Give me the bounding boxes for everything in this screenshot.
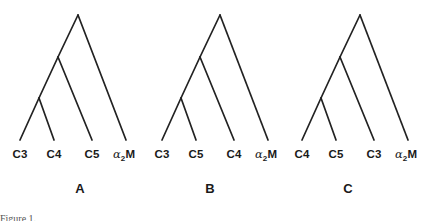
leaf-label-b-2: C5 bbox=[189, 147, 204, 161]
leaf-label-group-a: C3 C4 C5 α2M bbox=[0, 147, 140, 163]
panel-letter-c: C bbox=[343, 181, 352, 196]
leaf-label-c-4: α2M bbox=[395, 147, 417, 166]
leaf-label-a-1: C3 bbox=[13, 147, 28, 161]
branch-root-to-node2 bbox=[58, 15, 78, 57]
panel-letter-a: A bbox=[75, 181, 84, 196]
leaf-label-a-4: α2M bbox=[113, 147, 135, 166]
tree-panel-a: C3 C4 C5 α2M bbox=[0, 0, 140, 221]
branch-node3-to-leaf1 bbox=[20, 98, 39, 140]
leaf-label-a-2: C4 bbox=[47, 147, 62, 161]
branch-node3-to-leaf2 bbox=[181, 98, 196, 140]
branch-node2-to-node3 bbox=[321, 57, 340, 98]
panel-letter-b: B bbox=[205, 181, 214, 196]
caption-sliver: Figure 1. bbox=[0, 213, 424, 221]
branch-node2-to-leaf3 bbox=[200, 57, 234, 140]
branch-root-to-node2 bbox=[200, 15, 220, 57]
branch-node3-to-leaf1 bbox=[162, 98, 181, 140]
branch-node3-to-leaf1 bbox=[302, 98, 321, 140]
leaf-label-a-3: C5 bbox=[85, 147, 100, 161]
leaf-label-group-b: C3 C5 C4 α2M bbox=[142, 147, 282, 163]
branch-node2-to-leaf3 bbox=[58, 57, 92, 140]
leaf-label-group-c: C4 C5 C3 α2M bbox=[282, 147, 422, 163]
cladogram-c bbox=[282, 0, 422, 150]
branch-node2-to-node3 bbox=[181, 57, 200, 98]
branch-node2-to-leaf3 bbox=[340, 57, 374, 140]
leaf-label-c-2: C5 bbox=[329, 147, 344, 161]
leaf-label-c-1: C4 bbox=[295, 147, 310, 161]
cladogram-b bbox=[142, 0, 282, 150]
branch-node2-to-node3 bbox=[39, 57, 58, 98]
cladogram-a bbox=[0, 0, 140, 150]
branch-root-to-node2 bbox=[340, 15, 360, 57]
leaf-label-b-4: α2M bbox=[255, 147, 277, 166]
branch-node3-to-leaf2 bbox=[321, 98, 336, 140]
leaf-label-b-1: C3 bbox=[155, 147, 170, 161]
leaf-label-b-3: C4 bbox=[227, 147, 242, 161]
leaf-label-c-3: C3 bbox=[367, 147, 382, 161]
branch-node3-to-leaf2 bbox=[39, 98, 54, 140]
phylogenetic-tree-figure: C3 C4 C5 α2M C3 C5 C4 α2M bbox=[0, 0, 424, 221]
